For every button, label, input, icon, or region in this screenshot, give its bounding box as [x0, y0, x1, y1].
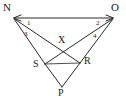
segment-RP: [62, 63, 80, 87]
angle-label-3: 3: [24, 31, 28, 38]
geometry-figure: N O X S R P 1 2 3 4: [0, 0, 126, 102]
segment-SR: [45, 63, 80, 64]
angle-label-1: 1: [27, 20, 31, 27]
vertex-label-R: R: [84, 56, 91, 66]
segment-SP: [45, 64, 62, 87]
segment-NR: [15, 19, 81, 63]
vertex-label-P: P: [58, 88, 64, 98]
segment-OS: [45, 19, 113, 64]
vertex-label-O: O: [111, 2, 119, 13]
angle-label-4: 4: [93, 33, 97, 40]
vertex-label-N: N: [3, 2, 11, 13]
vertex-label-X: X: [58, 35, 65, 45]
vertex-label-S: S: [33, 59, 39, 69]
angle-label-2: 2: [96, 20, 100, 27]
